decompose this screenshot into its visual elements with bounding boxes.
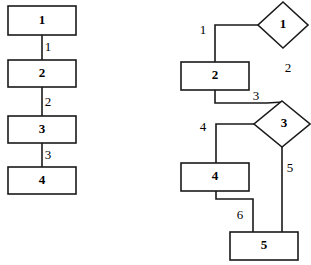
left-node-1-label: 1 xyxy=(39,12,46,27)
left-node-4[interactable]: 4 xyxy=(8,167,76,194)
right-diagram-group: 1 2 3 4 5 1 3 4 6 5 2 xyxy=(181,2,310,260)
right-edge-4-to-5 xyxy=(216,191,253,232)
right-edge-1-to-2 xyxy=(215,25,258,62)
right-node-1-label: 1 xyxy=(280,16,287,31)
flow-diagram-canvas: 1 2 3 4 1 2 3 1 xyxy=(0,0,311,265)
left-node-2[interactable]: 2 xyxy=(8,60,76,87)
left-edge-label-2: 2 xyxy=(45,94,52,109)
right-free-label-2: 2 xyxy=(285,60,292,75)
right-edge-label-4: 4 xyxy=(200,119,207,134)
right-node-5-label: 5 xyxy=(261,237,268,252)
left-node-3[interactable]: 3 xyxy=(8,116,76,143)
right-node-5[interactable]: 5 xyxy=(230,232,298,260)
right-edge-2-to-3 xyxy=(215,90,282,103)
left-node-4-label: 4 xyxy=(39,172,46,187)
right-edge-3-to-4 xyxy=(216,124,254,163)
right-edge-label-6: 6 xyxy=(237,207,244,222)
left-edge-label-1: 1 xyxy=(45,39,52,54)
right-node-3-label: 3 xyxy=(281,115,288,130)
left-edge-label-3: 3 xyxy=(45,147,52,162)
left-node-1[interactable]: 1 xyxy=(8,6,76,35)
right-node-3[interactable]: 3 xyxy=(254,101,310,147)
left-node-2-label: 2 xyxy=(39,65,46,80)
right-node-2-label: 2 xyxy=(212,67,219,82)
right-node-1[interactable]: 1 xyxy=(258,2,308,48)
right-node-2[interactable]: 2 xyxy=(181,62,249,90)
right-edge-label-5: 5 xyxy=(287,160,294,175)
right-node-4-label: 4 xyxy=(212,168,219,183)
right-node-4[interactable]: 4 xyxy=(181,163,249,191)
left-diagram-group: 1 2 3 4 1 2 3 xyxy=(8,6,76,194)
right-edge-label-3: 3 xyxy=(253,88,260,103)
right-edge-label-1: 1 xyxy=(200,22,207,37)
left-node-3-label: 3 xyxy=(39,121,46,136)
